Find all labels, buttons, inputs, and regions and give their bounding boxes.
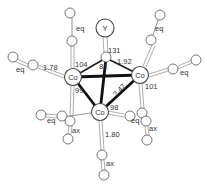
measure-81: 81: [99, 62, 107, 71]
label-eq-lower-right: eq: [131, 116, 139, 125]
atom-co-left: Co: [65, 69, 82, 86]
label-eq-left: eq: [16, 65, 24, 74]
label-eq-top-right: eq: [155, 24, 163, 33]
left-co-ligands: [8, 8, 77, 116]
label-ax-lower-left: ax: [72, 126, 80, 135]
svg-text:Co: Co: [68, 73, 78, 82]
bottom-co-ligands: [70, 111, 124, 180]
measure-98: 98: [110, 103, 118, 112]
measure-104: 104: [75, 60, 88, 69]
label-ax-lower-right: ax: [149, 124, 157, 133]
label-eq-lower-left: eq: [47, 116, 55, 125]
label-ax-bottom: ax: [106, 159, 114, 168]
measure-1-78: 1.78: [43, 63, 58, 72]
measure-1-92: 1.92: [117, 57, 132, 66]
label-eq-right: eq: [180, 68, 188, 77]
lower-left-carbonyls: [36, 110, 75, 144]
right-co-ligands: [139, 10, 201, 108]
svg-text:Y: Y: [102, 24, 107, 33]
lower-right-carbonyls: [125, 108, 152, 145]
molecular-structure-diagram: Y Co Co Co eq eq eq eq eq eq ax ax ax 13…: [0, 0, 207, 184]
measure-99: 99: [75, 86, 83, 95]
measure-2-47: 2.47: [111, 82, 128, 99]
atom-y: Y: [96, 19, 114, 37]
svg-text:Co: Co: [95, 108, 105, 117]
label-eq-top-left: eq: [76, 24, 84, 33]
measure-131: 131: [108, 46, 121, 55]
atom-co-right: Co: [132, 67, 149, 84]
measure-101: 101: [145, 82, 158, 91]
svg-text:Co: Co: [135, 71, 145, 80]
atom-co-bottom: Co: [92, 104, 109, 121]
measure-1-80: 1.80: [105, 130, 120, 139]
